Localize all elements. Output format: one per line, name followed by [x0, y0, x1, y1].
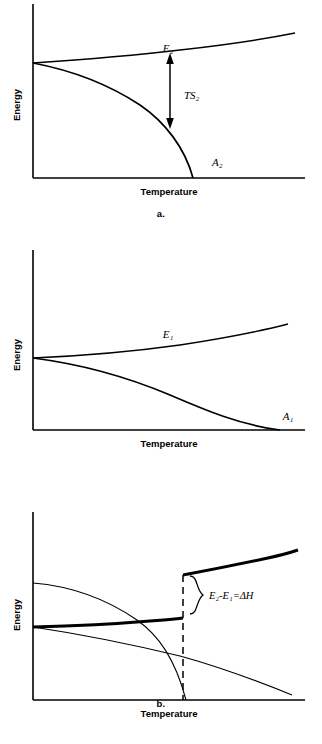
x-axis-label: Temperature	[141, 186, 198, 197]
panel-c: E₂-E₁=ΔH Temperature Energy c.	[0, 490, 322, 744]
curve-stable-high	[183, 550, 298, 575]
panel-a: E₂ TS₂ A₂ Temperature Energy a.	[0, 0, 322, 240]
label-a1: A₁	[282, 410, 294, 422]
label-a2: A₂	[211, 156, 223, 168]
ts2-arrow	[166, 53, 174, 129]
curve-e2-thin	[33, 583, 186, 700]
y-axis-label: Energy	[11, 88, 22, 121]
label-enthalpy: E₂-E₁=ΔH	[208, 590, 255, 601]
y-axis-label: Energy	[11, 598, 22, 631]
x-axis-label: Temperature	[141, 708, 198, 719]
panel-caption-a: a.	[0, 208, 322, 219]
x-axis-label: Temperature	[141, 438, 198, 449]
curve-e1	[33, 324, 288, 358]
y-axis-label: Energy	[11, 338, 22, 371]
thermodynamics-figure: E₂ TS₂ A₂ Temperature Energy a.	[0, 0, 322, 744]
panel-b: E₁ A₁ Temperature Energy b.	[0, 240, 322, 490]
curve-a1-thin	[33, 627, 292, 695]
curve-a1	[33, 358, 280, 430]
enthalpy-brace-icon	[190, 576, 203, 614]
curve-stable-low	[33, 618, 183, 627]
label-e1: E₁	[162, 328, 174, 340]
label-e2: E₂	[162, 42, 174, 54]
label-ts2: TS₂	[184, 89, 200, 101]
